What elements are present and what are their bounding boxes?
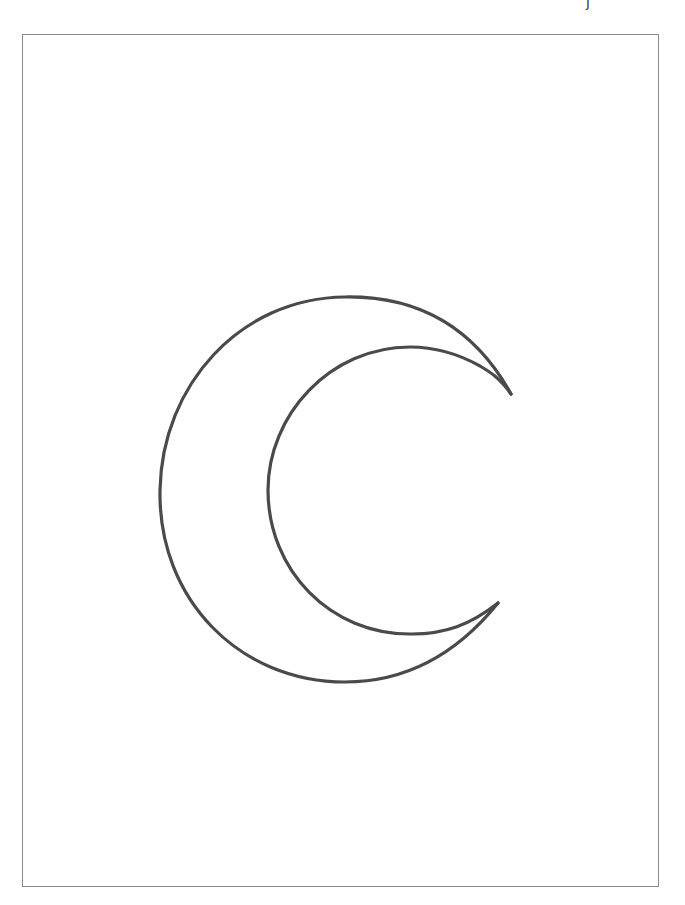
crescent-inner-arc [268,347,511,634]
crescent-moon-icon [0,0,685,905]
